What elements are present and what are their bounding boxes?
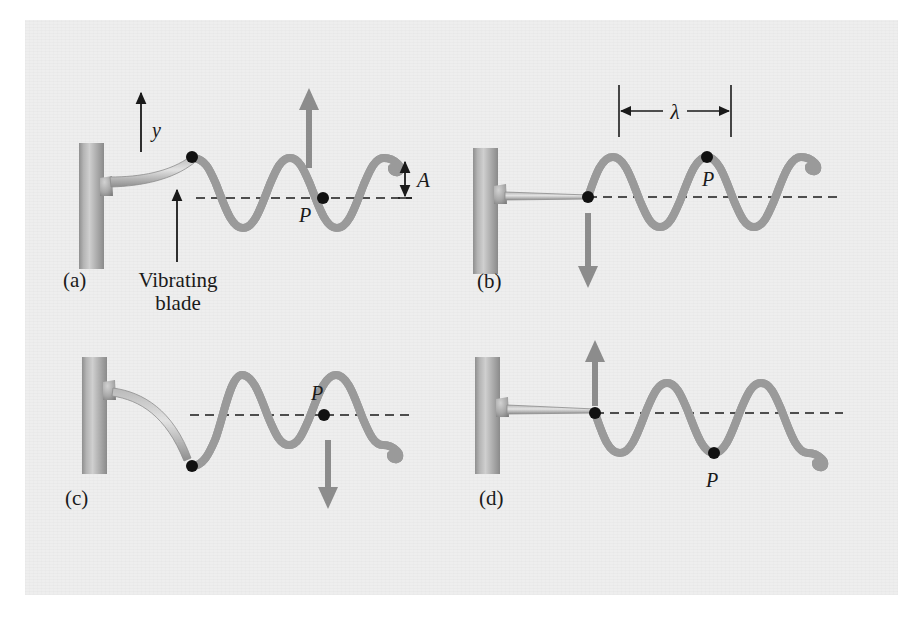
panel-a-blade-callout-line2: blade xyxy=(155,291,200,315)
panel-b-label: (b) xyxy=(477,269,502,293)
panel-d-point-p-marker xyxy=(708,447,720,459)
panel-b-point-p-label: P xyxy=(701,168,714,190)
panel-c-vibrating-blade xyxy=(103,380,191,461)
panel-d-label: (d) xyxy=(479,486,504,510)
panel-c-motion-arrow-down xyxy=(318,440,338,509)
panel-a-post xyxy=(79,143,104,269)
panel-c-label: (c) xyxy=(65,486,88,510)
panel-d-source-point xyxy=(589,407,601,419)
panel-d-point-p-label: P xyxy=(705,469,718,491)
panel-b-source-point xyxy=(582,191,594,203)
panel-c-point-p-marker xyxy=(318,409,330,421)
panel-a-rope xyxy=(192,158,400,228)
panel-b-wavelength-label: λ xyxy=(669,100,679,124)
panel-a-amplitude-label: A xyxy=(415,168,430,192)
panel-a-y-axis-label: y xyxy=(150,119,161,142)
panel-a-point-p-marker xyxy=(317,192,329,204)
panel-a: P y A Vibrating blade (a) xyxy=(63,88,430,315)
figure-root: P y A Vibrating blade (a) xyxy=(0,0,924,626)
panel-b-point-p-marker xyxy=(701,151,713,163)
panel-c-source-point xyxy=(186,460,198,472)
panel-c-rope xyxy=(192,375,399,466)
panel-d-vibrating-blade xyxy=(496,397,595,417)
panel-b-post xyxy=(473,148,498,274)
panel-b-vibrating-blade xyxy=(494,184,588,204)
panel-d: P (d) xyxy=(475,340,843,510)
panel-b: P λ (b) xyxy=(473,85,840,293)
panel-b-motion-arrow-down xyxy=(578,213,598,288)
panel-c-post xyxy=(82,357,107,474)
panel-d-motion-arrow-up xyxy=(585,340,605,406)
panel-a-source-point xyxy=(186,151,198,163)
panel-a-point-p-label: P xyxy=(298,204,311,226)
panel-a-motion-arrow-up xyxy=(299,88,319,168)
figure-canvas: P y A Vibrating blade (a) xyxy=(0,0,924,626)
panel-a-blade-callout-line1: Vibrating xyxy=(138,268,218,292)
panel-c-point-p-label: P xyxy=(310,382,323,404)
panel-c: P (c) xyxy=(65,357,412,510)
panel-a-vibrating-blade xyxy=(100,156,194,196)
panel-a-label: (a) xyxy=(63,268,86,292)
